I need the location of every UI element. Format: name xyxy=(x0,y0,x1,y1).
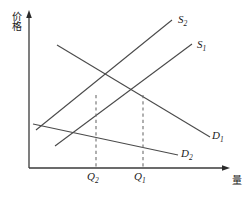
y-axis-label: 价 格 xyxy=(11,12,23,32)
diagram-canvas xyxy=(0,0,250,198)
curve-label-s1: S1 xyxy=(197,39,206,53)
curve-label-d1: D1 xyxy=(212,130,224,144)
demand-curve-d2 xyxy=(33,124,178,155)
demand-curve-d1 xyxy=(57,45,210,137)
x-tick-label-q2-base: Q xyxy=(87,170,95,182)
supply-demand-diagram: 价 格 量 S2 S1 D1 D2 Q2 Q1 xyxy=(0,0,250,198)
curve-label-d1-sub: 1 xyxy=(220,135,224,144)
x-tick-label-q1-base: Q xyxy=(134,170,142,182)
x-tick-label-q2: Q2 xyxy=(87,171,99,185)
curve-label-s2-sub: 2 xyxy=(184,19,188,28)
x-axis-arrowhead xyxy=(222,165,230,171)
x-tick-label-q1: Q1 xyxy=(134,171,146,185)
curve-label-d2-base: D xyxy=(181,147,189,159)
x-tick-label-q2-sub: 2 xyxy=(95,176,99,185)
curve-label-d2-sub: 2 xyxy=(189,153,193,162)
curve-label-s1-sub: 1 xyxy=(203,44,207,53)
curve-label-d1-base: D xyxy=(212,129,220,141)
x-axis-label: 量 xyxy=(232,176,242,186)
curve-label-s2: S2 xyxy=(178,14,187,28)
x-tick-label-q1-sub: 1 xyxy=(142,176,146,185)
y-axis-arrowhead xyxy=(26,10,32,18)
y-axis-label-char-2: 格 xyxy=(11,22,23,32)
supply-curve-s2 xyxy=(36,20,172,130)
curve-label-d2: D2 xyxy=(181,148,193,162)
